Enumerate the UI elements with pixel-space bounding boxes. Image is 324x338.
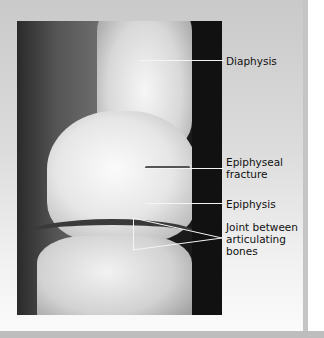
label-epiphysis: Epiphysis — [226, 198, 276, 210]
label-joint-3: bones — [226, 245, 258, 257]
label-diaphysis: Diaphysis — [226, 55, 277, 67]
label-joint-2: articulating — [226, 233, 286, 245]
label-epiphyseal-fracture-2: fracture — [226, 168, 268, 180]
label-joint-1: Joint between — [226, 221, 298, 233]
joint-leader-lines — [0, 0, 324, 338]
label-epiphyseal-fracture-1: Epiphyseal — [226, 156, 283, 168]
